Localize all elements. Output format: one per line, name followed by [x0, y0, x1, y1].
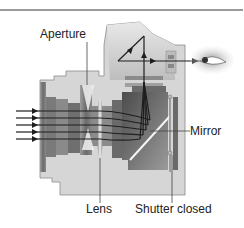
shutter	[168, 95, 178, 172]
label-lens: Lens	[86, 203, 112, 215]
label-shutter-closed: Shutter closed	[135, 203, 212, 215]
label-aperture: Aperture	[40, 28, 86, 40]
camera-diagram	[0, 0, 244, 228]
lens	[97, 98, 103, 158]
viewfinder	[166, 51, 176, 73]
label-mirror: Mirror	[190, 125, 221, 137]
eye-icon	[190, 46, 234, 74]
